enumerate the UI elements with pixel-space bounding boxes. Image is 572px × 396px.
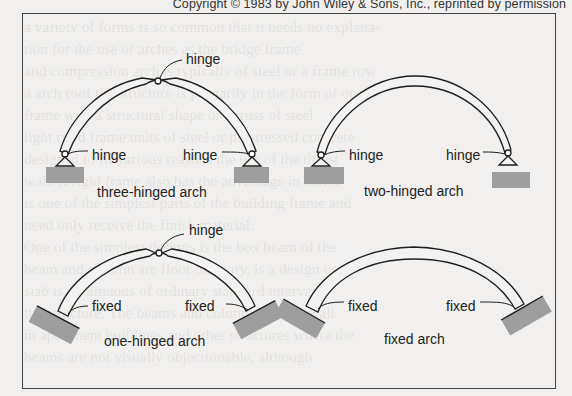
label-crown-hinge: hinge xyxy=(189,222,223,238)
crown-hinge-icon xyxy=(155,78,161,84)
label-right-fixed: fixed xyxy=(185,298,215,314)
arch-segment-left xyxy=(60,78,157,154)
label-right-fixed: fixed xyxy=(446,298,476,314)
leader-line xyxy=(480,302,514,307)
two-hinged-arch: hinge hinge two-hinged arch xyxy=(304,76,530,199)
foundation-block xyxy=(492,172,530,188)
label-left-hinge: hinge xyxy=(349,147,383,163)
foundation-block xyxy=(46,167,84,183)
one-hinged-arch: hinge fixed fixed one-hinged arch xyxy=(29,222,284,349)
caption-three-hinged-arch: three-hinged arch xyxy=(97,184,207,200)
label-left-fixed: fixed xyxy=(92,298,122,314)
crown-hinge-icon xyxy=(156,250,162,256)
fixed-support-right xyxy=(501,296,552,336)
pin-support-icon xyxy=(243,157,261,166)
leader-line xyxy=(324,151,345,155)
label-left-hinge: hinge xyxy=(92,147,126,163)
left-hinge-icon xyxy=(318,152,324,158)
fixed-support-left xyxy=(29,306,80,344)
three-hinged-arch: hinge hinge hinge three-hinged arch xyxy=(46,51,269,200)
foundation-block xyxy=(304,167,344,184)
arch-body xyxy=(317,76,511,154)
pin-support-icon xyxy=(499,156,517,165)
leader-line xyxy=(222,152,249,154)
caption-one-hinged-arch: one-hinged arch xyxy=(104,333,205,349)
label-crown-hinge: hinge xyxy=(186,51,220,67)
fixed-arch: fixed fixed fixed arch xyxy=(274,247,551,347)
leader-line xyxy=(160,60,182,78)
label-right-hinge: hinge xyxy=(183,147,217,163)
label-left-fixed: fixed xyxy=(348,298,378,314)
label-right-hinge: hinge xyxy=(446,147,480,163)
leader-line xyxy=(68,151,88,154)
leader-line xyxy=(483,152,505,154)
caption-two-hinged-arch: two-hinged arch xyxy=(364,183,464,199)
caption-fixed-arch: fixed arch xyxy=(384,331,445,347)
leader-line xyxy=(161,234,184,250)
foundation-block xyxy=(234,167,269,183)
pin-support-icon xyxy=(56,157,74,166)
pin-support-icon xyxy=(312,158,330,166)
arch-types-diagram: hinge hinge hinge three-hinged arch hing… xyxy=(0,0,572,396)
arch-segment-right xyxy=(161,78,256,154)
